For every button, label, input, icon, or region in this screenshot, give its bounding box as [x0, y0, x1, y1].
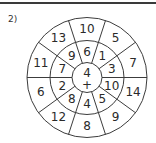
outer_ring-number: 7 [129, 56, 137, 70]
middle_ring-number: 9 [68, 49, 76, 63]
math-wheel-puzzle: 61310548279 105714981261113 4 + [0, 0, 156, 143]
outer_ring-number: 6 [37, 85, 45, 99]
outer_ring-number: 12 [51, 110, 66, 124]
middle_ring-number: 8 [68, 92, 76, 106]
middle_ring-number: 3 [108, 62, 116, 76]
outer_ring-number: 13 [51, 31, 66, 45]
outer_ring-number: 14 [125, 85, 140, 99]
middle_ring-number: 2 [58, 79, 66, 93]
outer_ring-number: 5 [112, 31, 120, 45]
outer_ring-number: 8 [83, 119, 91, 133]
outer_ring-number: 10 [79, 22, 94, 36]
middle_ring-number: 6 [83, 45, 91, 59]
middle_ring-number: 7 [58, 62, 66, 76]
outer_ring-number: 9 [112, 110, 120, 124]
middle_ring-number: 5 [98, 92, 106, 106]
center-operator-plus: + [82, 78, 92, 92]
middle_ring-number: 1 [98, 49, 106, 63]
outer_ring-number: 11 [33, 56, 48, 70]
middle_ring-number: 10 [104, 79, 119, 93]
middle_ring-number: 4 [83, 97, 91, 111]
